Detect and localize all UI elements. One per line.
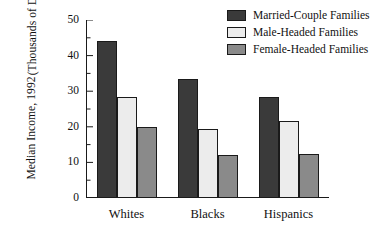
y-tick-label: 30 [68, 85, 80, 97]
legend-item: Female-Headed Families [227, 42, 370, 56]
bar [97, 41, 117, 198]
bar [279, 121, 299, 198]
bar [178, 79, 198, 198]
y-tick-label: 10 [68, 157, 80, 169]
y-axis-title-line-2: (Thousands of Dollars) [26, 0, 39, 75]
y-axis-title-line-1: Median Income, 1992 [25, 76, 38, 179]
x-category-label: Blacks [190, 207, 224, 221]
y-tick-label: 50 [68, 14, 80, 26]
legend-item: Male-Headed Families [227, 25, 370, 39]
legend-label: Female-Headed Families [253, 43, 368, 55]
y-tick-label: 40 [68, 50, 80, 62]
legend-item: Married-Couple Families [227, 8, 370, 22]
bar [259, 97, 279, 198]
bar [137, 127, 157, 198]
legend-label: Married-Couple Families [253, 9, 370, 21]
legend-swatch-icon [227, 44, 246, 55]
bar [299, 154, 319, 198]
legend-swatch-icon [227, 10, 246, 21]
bar-chart-figure: Median Income, 1992 (Thousands of Dollar… [0, 0, 386, 240]
x-category-label: Hispanics [264, 207, 313, 221]
x-category-label: Whites [109, 207, 144, 221]
y-tick-label: 0 [73, 192, 79, 204]
bar [218, 155, 238, 198]
bar [198, 129, 218, 198]
y-tick-label: 20 [68, 121, 80, 133]
legend-swatch-icon [227, 27, 246, 38]
y-axis-title: Median Income, 1992 (Thousands of Dollar… [15, 0, 49, 157]
chart-legend: Married-Couple FamiliesMale-Headed Famil… [227, 8, 370, 56]
bar-group: Whites [86, 20, 167, 198]
legend-label: Male-Headed Families [253, 26, 358, 38]
bar [117, 97, 137, 198]
